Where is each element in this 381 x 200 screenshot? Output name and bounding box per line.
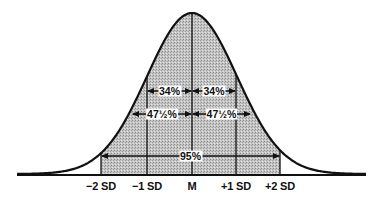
- tick-label-minus-1sd: −1 SD: [132, 180, 162, 192]
- normal-distribution-diagram: −2 SD −1 SD M +1 SD +2 SD 34% 34% 47½% 4…: [0, 0, 381, 200]
- label-34-left: 34%: [158, 86, 181, 97]
- tick-label-mean: M: [188, 180, 197, 192]
- tick-label-minus-2sd: −2 SD: [86, 180, 116, 192]
- tick-label-plus-1sd: +1 SD: [221, 180, 251, 192]
- label-34-right: 34%: [202, 86, 225, 97]
- label-47-5-right: 47½%: [206, 109, 238, 120]
- tick-label-plus-2sd: +2 SD: [265, 180, 295, 192]
- label-47-5-left: 47½%: [146, 109, 178, 120]
- bell-curve-graphic: [0, 0, 381, 200]
- label-95: 95%: [179, 151, 202, 162]
